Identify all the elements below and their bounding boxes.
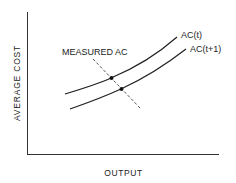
- curve-ac-t: [65, 37, 177, 94]
- cost-curve-diagram: MEASURED AC AC(t) AC(t+1) OUTPUT AVERAGE…: [0, 0, 236, 183]
- curve-label-ac-t-plus-1: AC(t+1): [190, 44, 221, 54]
- measured-ac-label: MEASURED AC: [62, 47, 128, 57]
- curve-ac-t-plus-1: [70, 49, 186, 109]
- curve-label-ac-t: AC(t): [181, 30, 202, 40]
- intersection-point-ac-t: [110, 76, 114, 80]
- y-axis-label: AVERAGE COST: [12, 45, 22, 121]
- x-axis-label: OUTPUT: [104, 168, 143, 178]
- intersection-point-ac-t-plus-1: [120, 87, 124, 91]
